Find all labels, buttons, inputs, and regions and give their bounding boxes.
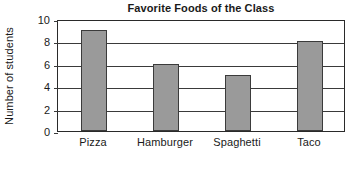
chart-title: Favorite Foods of the Class <box>57 2 345 14</box>
y-axis-title: Number of students <box>3 27 15 125</box>
x-axis-category-label: Spaghetti <box>213 136 260 148</box>
x-axis-category-label: Hamburger <box>137 136 193 148</box>
bar <box>225 75 251 131</box>
plot-area <box>57 20 345 132</box>
x-axis-category-label: Pizza <box>79 136 106 148</box>
y-axis-tick-label: 4 <box>44 81 50 93</box>
y-axis-tick-label: 6 <box>44 59 50 71</box>
y-axis-tick-label: 2 <box>44 104 50 116</box>
x-axis-category-label: Taco <box>297 136 321 148</box>
x-axis-category-labels: PizzaHamburgerSpaghettiTaco <box>57 136 345 156</box>
bar <box>81 30 107 131</box>
bar-chart-screenshot: Favorite Foods of the Class Number of st… <box>0 0 364 171</box>
y-axis-tick-mark <box>54 133 58 134</box>
y-axis-title-container: Number of students <box>0 20 18 132</box>
bar <box>297 41 323 131</box>
y-axis-tick-label: 10 <box>38 14 50 26</box>
bar-series <box>58 21 344 131</box>
y-axis-tick-labels: 0246810 <box>20 20 54 132</box>
y-axis-tick-label: 0 <box>44 126 50 138</box>
bar <box>153 64 179 131</box>
y-axis-tick-label: 8 <box>44 36 50 48</box>
